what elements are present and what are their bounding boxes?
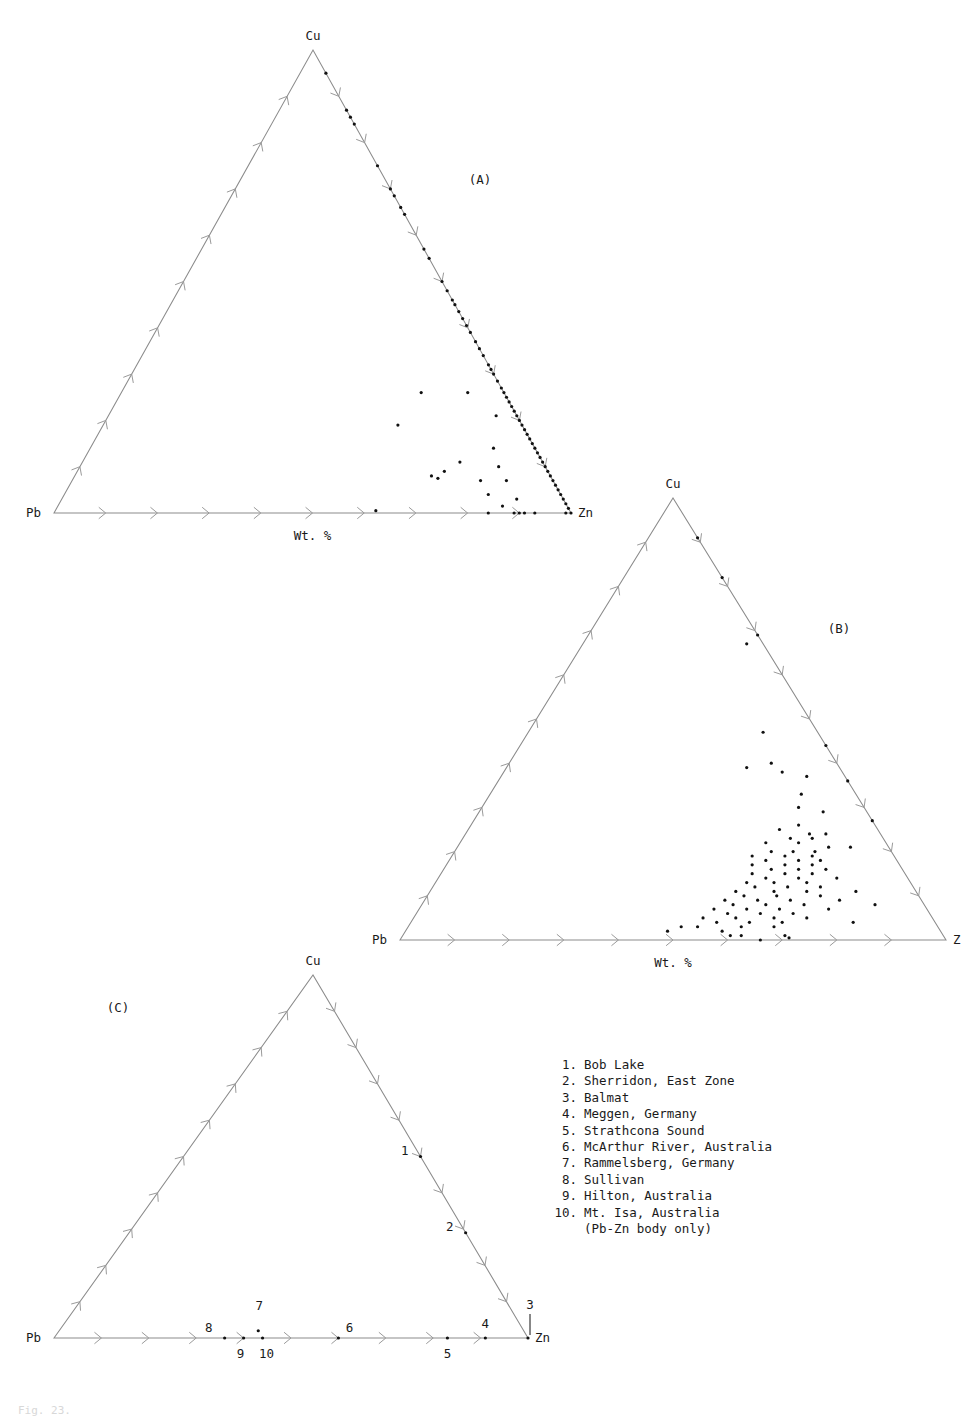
data-point-A (569, 511, 572, 514)
data-point-B (835, 877, 838, 880)
data-point-B (783, 863, 786, 866)
legend-item-label: Hilton, Australia (584, 1188, 712, 1203)
figure-caption: Fig. 23. (18, 1404, 71, 1417)
data-point-B (792, 850, 795, 853)
legend-item: 9.Hilton, Australia (551, 1188, 772, 1204)
panel-c-point-label-8: 8 (205, 1320, 213, 1335)
legend-item-label: Bob Lake (584, 1057, 644, 1072)
data-point-B (854, 890, 857, 893)
data-point-A (526, 433, 529, 436)
data-point-A (479, 479, 482, 482)
data-point-A (559, 493, 562, 496)
data-point-A (507, 400, 510, 403)
legend-subnote-row: (Pb-Zn body only) (551, 1221, 772, 1237)
data-point-A (345, 109, 348, 112)
data-point-A (457, 310, 460, 313)
data-point-B (740, 925, 743, 928)
data-point-C (419, 1155, 422, 1158)
data-point-B (723, 899, 726, 902)
ternary-panel-A: CuPbZnWt. %(A) (26, 28, 593, 543)
data-point-B (822, 810, 825, 813)
legend-item-label: Balmat (584, 1090, 629, 1105)
data-point-B (805, 881, 808, 884)
data-point-A (564, 502, 567, 505)
data-point-A (500, 386, 503, 389)
data-point-A (399, 206, 402, 209)
data-point-A (502, 391, 505, 394)
data-point-C (464, 1231, 467, 1234)
data-point-B (783, 854, 786, 857)
vertex-label-zn-A: Zn (578, 505, 593, 520)
axis-tick-A-right-edge (330, 87, 340, 96)
data-point-B (800, 793, 803, 796)
panel-c-point-label-3: 3 (526, 1297, 534, 1312)
data-point-B (666, 930, 669, 933)
axis-tick-B-right-edge (801, 710, 811, 719)
data-point-B (748, 921, 751, 924)
legend-item-number: 9. (551, 1188, 577, 1204)
data-point-C (242, 1336, 245, 1339)
data-point-B (770, 868, 773, 871)
axis-tick-C-right-edge (326, 1002, 336, 1011)
data-point-B (745, 907, 748, 910)
legend-item-number: 10. (551, 1205, 577, 1221)
vertex-label-zn-C: Zn (535, 1330, 550, 1345)
data-point-A (554, 484, 557, 487)
data-point-B (781, 921, 784, 924)
data-point-A (515, 414, 518, 417)
data-point-A (518, 511, 521, 514)
data-point-A (478, 347, 481, 350)
data-point-B (778, 907, 781, 910)
triangle-outline-B (400, 498, 946, 940)
legend-item-label: Sherridon, East Zone (584, 1073, 735, 1088)
data-point-A (533, 511, 536, 514)
axis-tick-B-right-edge (719, 577, 729, 586)
data-point-B (715, 921, 718, 924)
data-point-A (440, 280, 443, 283)
data-point-A (446, 289, 449, 292)
data-point-B (871, 819, 874, 822)
data-point-B (772, 925, 775, 928)
data-point-A (518, 419, 521, 422)
axis-tick-B-left-edge (583, 631, 593, 640)
data-point-B (772, 890, 775, 893)
data-point-B (734, 916, 737, 919)
axis-tick-A-left-edge (175, 282, 185, 291)
legend-item-number: 8. (551, 1172, 577, 1188)
legend-item: 8.Sullivan (551, 1172, 772, 1188)
panel-c-point-label-7: 7 (255, 1298, 263, 1313)
legend-item-label: Rammelsberg, Germany (584, 1155, 735, 1170)
axis-tick-B-left-edge (610, 586, 620, 595)
data-point-C (446, 1336, 449, 1339)
data-point-B (819, 885, 822, 888)
data-point-B (751, 854, 754, 857)
data-point-A (324, 72, 327, 75)
data-point-B (808, 832, 811, 835)
data-point-A (523, 511, 526, 514)
data-point-A (497, 465, 500, 468)
data-point-B (846, 779, 849, 782)
data-point-A (496, 379, 499, 382)
data-point-C (484, 1336, 487, 1339)
axis-label-A: Wt. % (294, 528, 332, 543)
data-point-B (797, 823, 800, 826)
data-point-A (461, 317, 464, 320)
legend-item-label: Meggen, Germany (584, 1106, 697, 1121)
data-point-B (745, 766, 748, 769)
data-point-A (510, 405, 513, 408)
data-point-C (337, 1336, 340, 1339)
data-point-B (753, 885, 756, 888)
panel-label-A: (A) (469, 172, 492, 187)
data-point-B (819, 859, 822, 862)
data-point-B (797, 841, 800, 844)
data-point-A (551, 479, 554, 482)
axis-tick-B-right-edge (856, 798, 866, 807)
data-point-A (482, 354, 485, 357)
data-point-B (797, 859, 800, 862)
axis-tick-C-right-edge (369, 1075, 379, 1084)
ternary-figure: CuPbZnWt. %(A)CuPbZWt. %(B)CuPbZn(C)1234… (0, 0, 972, 1420)
legend-item-label: Mt. Isa, Australia (584, 1205, 719, 1220)
figure-page: CuPbZnWt. %(A)CuPbZWt. %(B)CuPbZn(C)1234… (0, 0, 972, 1420)
data-point-A (443, 470, 446, 473)
axis-tick-B-left-edge (555, 675, 565, 684)
